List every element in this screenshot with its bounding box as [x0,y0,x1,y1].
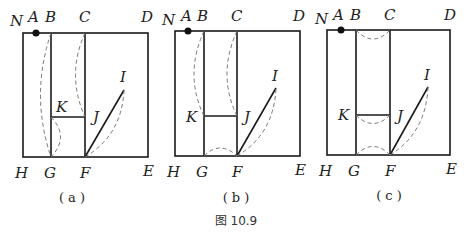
dashed-arc-BG [41,33,52,157]
label-N: N [314,10,329,28]
point-A-dot [185,28,192,35]
label-F: F [231,163,243,181]
dashed-arc-GF [356,147,390,156]
label-G: G [196,163,208,181]
label-K: K [55,98,68,116]
label-N: N [161,11,176,29]
label-E: E [445,160,457,178]
label-I: I [423,66,431,84]
label-B: B [196,7,208,25]
outer-rectangle [327,30,450,155]
label-C: C [384,6,396,24]
dashed-arc-GF [204,148,237,156]
label-E: E [294,161,306,179]
panel-a-caption: ( a ) [59,190,85,205]
label-H: H [14,164,29,182]
panel-c: N A B C D K J I H G F E ( c ) [314,6,457,203]
figure-caption: 图 10.9 [215,214,258,228]
label-D: D [292,7,305,25]
panel-c-caption: ( c ) [376,188,402,203]
dashed-arc-KG [51,117,61,157]
label-B: B [44,8,56,26]
point-A-dot [33,30,40,37]
label-C: C [79,8,91,26]
label-J: J [394,107,404,125]
line-FI [390,87,428,155]
label-D: D [443,6,456,24]
label-D: D [140,8,153,26]
label-A: A [26,8,39,26]
label-F: F [79,164,91,182]
label-H: H [318,162,333,180]
panel-b: N A B C D K J I H G F E ( b ) [161,7,306,205]
line-FI [85,90,124,157]
label-J: J [90,108,100,126]
label-J: J [241,108,251,126]
label-G: G [348,162,360,180]
dashed-arc-KJ [356,115,390,124]
label-A: A [331,6,344,24]
dashed-arc-CJ [227,31,237,116]
label-A: A [179,7,192,25]
dashed-arc-BC [356,30,390,39]
label-F: F [384,162,396,180]
label-K: K [337,106,350,124]
label-B: B [349,6,361,24]
panel-a: N A B C D K J I H G F E ( a ) [9,8,154,205]
panel-b-caption: ( b ) [223,190,250,205]
point-A-dot [338,27,345,34]
label-I: I [119,68,127,86]
line-FI [237,88,276,156]
label-E: E [142,162,154,180]
label-H: H [166,163,181,181]
dashed-arc-BK [194,31,204,116]
dashed-arc-CJ [76,33,86,117]
figure-10-9: N A B C D K J I H G F E ( a ) N A B C D … [0,0,469,236]
label-N: N [9,12,24,30]
label-I: I [271,67,279,85]
label-C: C [231,7,243,25]
label-K: K [185,108,198,126]
label-G: G [44,164,56,182]
